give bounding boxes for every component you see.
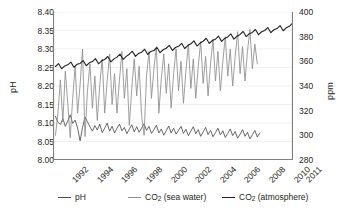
x-axis-tick-label: 1992 [71, 165, 90, 184]
y-axis-right-tick-label: 300 [299, 131, 313, 140]
legend-swatch [58, 197, 71, 198]
x-axis-tick-label: 2006 [243, 165, 262, 184]
legend-item[interactable]: CO2 (atmosphere) [222, 193, 308, 203]
x-axis-tick-label: 2000 [169, 165, 188, 184]
legend-label-subscript: 2 [252, 195, 256, 202]
legend-label: CO2 (sea water) [145, 193, 206, 203]
series-line-co2-sea-water [55, 29, 257, 138]
legend-item[interactable]: pH [58, 193, 86, 202]
y-axis-right-title: ppm [325, 71, 335, 111]
x-axis-tick-label: 1994 [95, 165, 114, 184]
x-axis-tick-label: 2004 [218, 165, 237, 184]
legend-label: pH [75, 193, 86, 202]
y-axis-right-tick-label: 280 [299, 156, 313, 165]
legend-item[interactable]: CO2 (sea water) [128, 193, 206, 203]
y-axis-left-tick-label: 8.10 [37, 119, 54, 128]
y-axis-left-tick-label: 8.40 [37, 8, 54, 17]
x-axis-tick-label: 2002 [194, 165, 213, 184]
chart-figure: pH ppm 8.008.058.108.158.208.258.308.358… [0, 0, 343, 213]
y-axis-left-tick-label: 8.15 [37, 101, 54, 110]
y-axis-left-tick-label: 8.25 [37, 64, 54, 73]
y-axis-right-tick-label: 340 [299, 82, 313, 91]
x-axis-tick-label: 2008 [268, 165, 287, 184]
y-axis-right-tick-label: 380 [299, 33, 313, 42]
y-axis-left-tick-label: 8.05 [37, 138, 54, 147]
legend-label-subscript: 2 [158, 195, 162, 202]
y-axis-left-tick-label: 8.30 [37, 45, 54, 54]
y-axis-left-title: pH [8, 67, 18, 107]
y-axis-left-tick-label: 8.35 [37, 27, 54, 36]
plot-svg [53, 12, 293, 160]
chart-legend: pHCO2 (sea water)CO2 (atmosphere) [0, 191, 343, 207]
y-axis-right-tick-label: 360 [299, 57, 313, 66]
legend-label: CO2 (atmosphere) [239, 193, 308, 203]
y-axis-left-tick-label: 8.00 [37, 156, 54, 165]
x-axis-tick-label: 1998 [145, 165, 164, 184]
legend-swatch [128, 197, 141, 198]
x-axis-tick-label: 1996 [120, 165, 139, 184]
legend-swatch [222, 197, 235, 198]
y-axis-right-tick-label: 400 [299, 8, 313, 17]
y-axis-left-tick-label: 8.20 [37, 82, 54, 91]
y-axis-right-tick-label: 320 [299, 107, 313, 116]
plot-area [53, 12, 293, 160]
